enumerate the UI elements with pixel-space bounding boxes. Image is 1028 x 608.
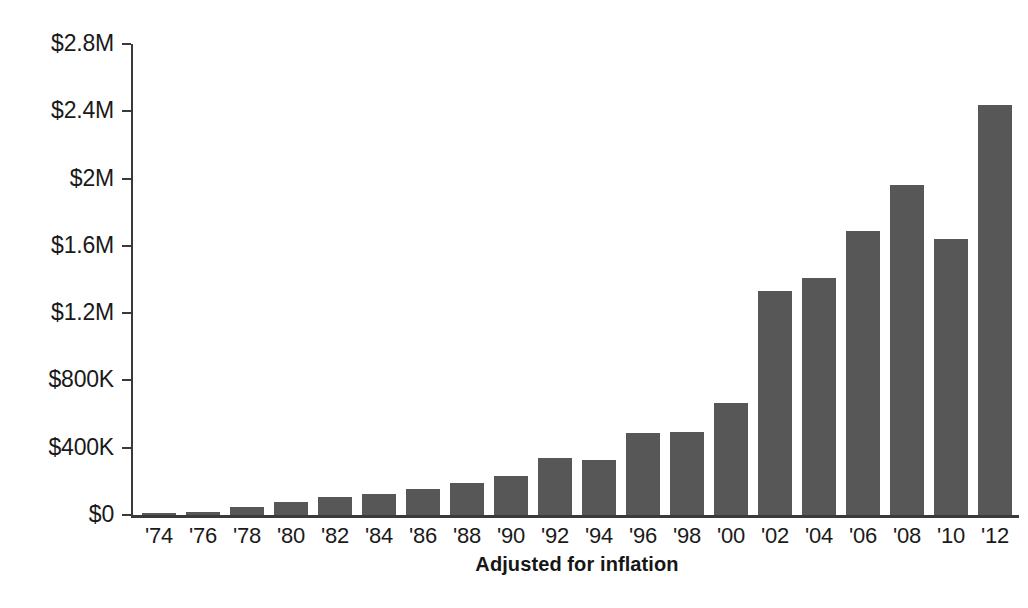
bar[interactable] <box>230 507 264 515</box>
x-axis-line <box>131 515 1019 518</box>
bar[interactable] <box>186 512 220 515</box>
x-tick-label: '90 <box>489 521 533 553</box>
bar[interactable] <box>318 497 352 516</box>
x-tick-label: '00 <box>709 521 753 553</box>
bar[interactable] <box>274 502 308 515</box>
x-tick-label: '82 <box>313 521 357 553</box>
y-tick-mark <box>122 43 131 45</box>
x-tick-label: '76 <box>181 521 225 553</box>
bar[interactable] <box>142 513 176 515</box>
bar-slot <box>577 44 621 515</box>
bar-slot <box>665 44 709 515</box>
bar-slot <box>269 44 313 515</box>
bar-slot <box>357 44 401 515</box>
bar[interactable] <box>802 278 836 515</box>
bar[interactable] <box>714 403 748 515</box>
bar[interactable] <box>978 105 1012 515</box>
bar[interactable] <box>582 460 616 516</box>
y-tick-mark <box>122 379 131 381</box>
x-tick-label: '88 <box>445 521 489 553</box>
bar[interactable] <box>846 231 880 515</box>
y-tick-mark <box>122 514 131 516</box>
bar-slot <box>973 44 1017 515</box>
bar[interactable] <box>538 458 572 515</box>
y-tick-label: $0 <box>89 501 114 527</box>
x-tick-label: '06 <box>841 521 885 553</box>
x-tick-label: '84 <box>357 521 401 553</box>
bar-chart: $0$400K$800K$1.2M$1.6M$2M$2.4M$2.8M '74'… <box>0 0 1028 608</box>
y-tick-label: $800K <box>48 366 114 392</box>
x-axis-title: Adjusted for inflation <box>137 553 1017 576</box>
y-tick-mark <box>122 245 131 247</box>
x-tick-label: '92 <box>533 521 577 553</box>
bar[interactable] <box>406 489 440 515</box>
plot-area <box>137 44 1017 515</box>
bar-slot <box>709 44 753 515</box>
bar[interactable] <box>450 483 484 515</box>
bar-slot <box>489 44 533 515</box>
bar-slot <box>181 44 225 515</box>
y-tick-mark <box>122 110 131 112</box>
y-tick-label: $2.4M <box>51 97 114 123</box>
bar[interactable] <box>758 291 792 515</box>
x-tick-label: '94 <box>577 521 621 553</box>
x-tick-label: '12 <box>973 521 1017 553</box>
y-tick-mark <box>122 178 131 180</box>
y-tick-label: $1.2M <box>51 299 114 325</box>
x-tick-label: '96 <box>621 521 665 553</box>
y-tick-mark <box>122 312 131 314</box>
y-tick-label: $2.8M <box>51 30 114 56</box>
x-tick-label: '04 <box>797 521 841 553</box>
bar-slot <box>929 44 973 515</box>
bar-slot <box>533 44 577 515</box>
x-tick-label: '10 <box>929 521 973 553</box>
y-tick-mark <box>122 447 131 449</box>
x-tick-label: '86 <box>401 521 445 553</box>
y-tick-label: $1.6M <box>51 232 114 258</box>
bar-slot <box>313 44 357 515</box>
bar[interactable] <box>934 239 968 515</box>
bar-slot <box>137 44 181 515</box>
bar-slot <box>225 44 269 515</box>
bar-slot <box>885 44 929 515</box>
bar[interactable] <box>626 433 660 515</box>
x-tick-label: '74 <box>137 521 181 553</box>
bar-slot <box>753 44 797 515</box>
x-axis-ticks: '74'76'78'80'82'84'86'88'90'92'94'96'98'… <box>137 521 1017 553</box>
x-tick-label: '98 <box>665 521 709 553</box>
x-tick-label: '08 <box>885 521 929 553</box>
x-tick-label: '80 <box>269 521 313 553</box>
bar[interactable] <box>362 494 396 515</box>
x-tick-label: '02 <box>753 521 797 553</box>
x-tick-label: '78 <box>225 521 269 553</box>
y-axis-line <box>131 44 133 516</box>
bar[interactable] <box>494 476 528 515</box>
y-tick-label: $400K <box>48 434 114 460</box>
bar-slot <box>401 44 445 515</box>
bar-slot <box>797 44 841 515</box>
bar[interactable] <box>890 185 924 515</box>
bar-series <box>137 44 1017 515</box>
bar-slot <box>445 44 489 515</box>
y-tick-label: $2M <box>70 165 114 191</box>
bar-slot <box>841 44 885 515</box>
bar[interactable] <box>670 432 704 515</box>
bar-slot <box>621 44 665 515</box>
